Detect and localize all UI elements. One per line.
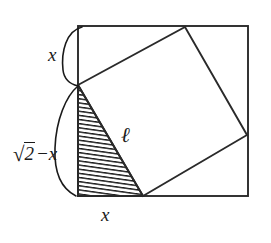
geometry-figure: x x √2−x ℓ [0,0,271,243]
brace-sqrt2-minus-x-icon [55,86,78,196]
label-x-bottom: x [101,205,109,224]
sqrt-radicand: 2 [24,142,36,163]
brace-x-top-icon [63,27,82,86]
label-sqrt2-minus-x: √2−x [13,142,57,165]
sqrt-tail: −x [36,144,57,163]
figure-canvas [0,0,271,243]
label-ell: ℓ [121,125,130,146]
sqrt-expression: √2−x [13,142,57,165]
label-x-top: x [48,45,56,64]
